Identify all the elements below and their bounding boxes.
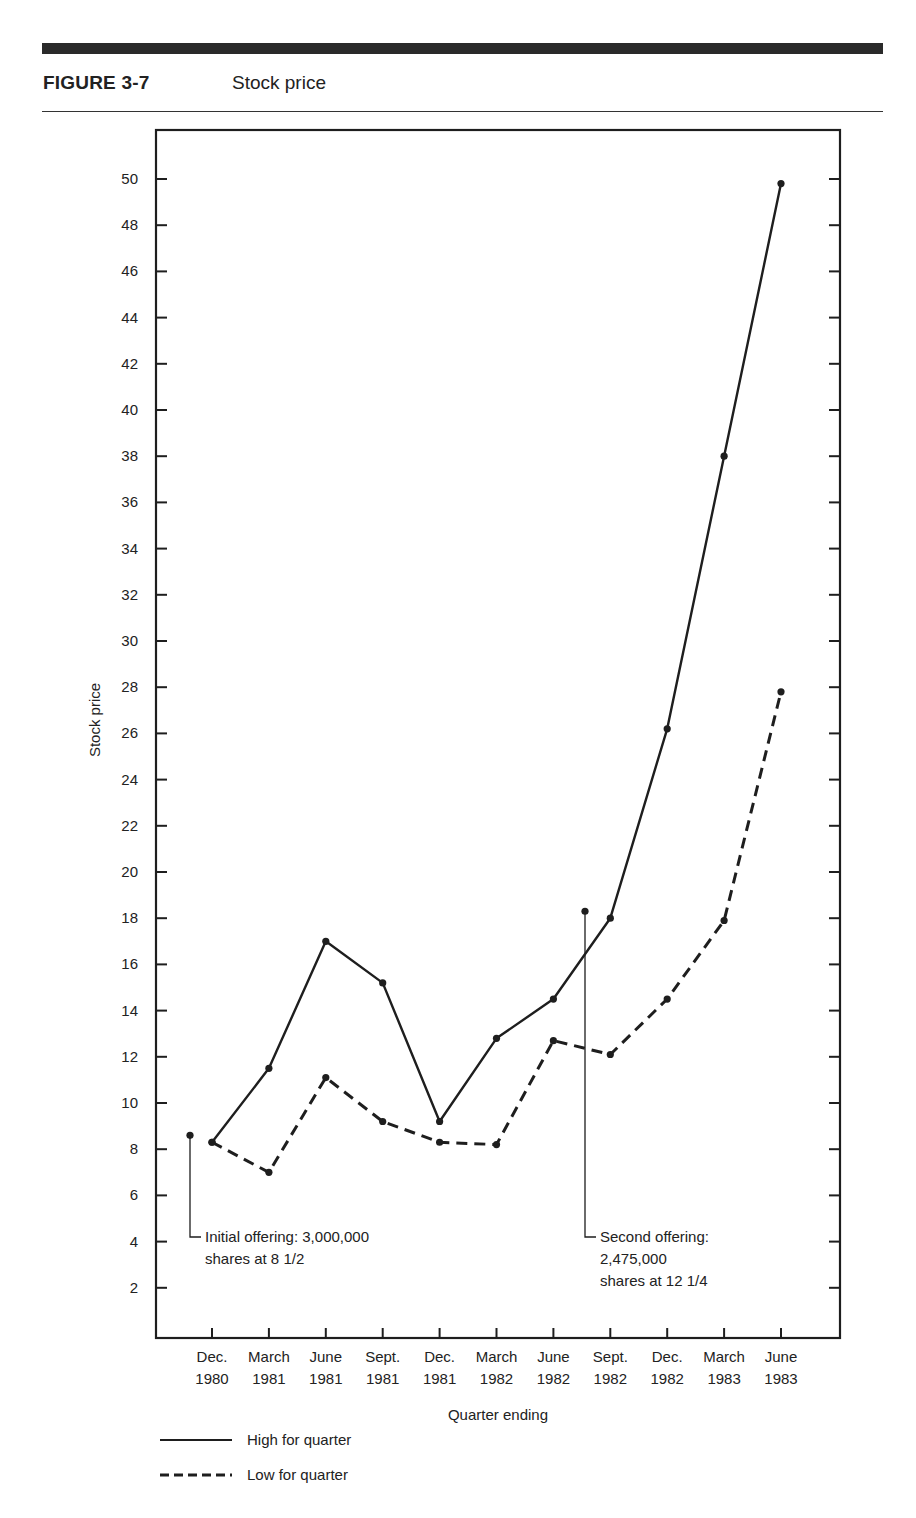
- low-series-line: [212, 692, 781, 1172]
- x-tick-label-year: 1981: [252, 1370, 285, 1387]
- initial-offering-leader-line: [190, 1135, 201, 1237]
- high-data-point: [322, 938, 329, 945]
- y-tick-label: 10: [121, 1094, 138, 1111]
- x-tick-label-month: Dec.: [652, 1348, 683, 1365]
- high-data-point: [607, 915, 614, 922]
- x-tick-label-month: June: [765, 1348, 798, 1365]
- x-tick-label-year: 1982: [594, 1370, 627, 1387]
- low-data-point: [721, 917, 728, 924]
- y-tick-label: 44: [121, 309, 138, 326]
- y-tick-label: 46: [121, 262, 138, 279]
- y-tick-label: 32: [121, 586, 138, 603]
- y-tick-label: 36: [121, 493, 138, 510]
- high-data-point: [493, 1035, 500, 1042]
- x-tick-label-year: 1983: [707, 1370, 740, 1387]
- stock-price-chart: 2468101214161820222426283032343638404244…: [0, 0, 916, 1518]
- second-offering-label: Second offering:: [600, 1228, 709, 1245]
- low-data-point: [664, 995, 671, 1002]
- x-tick-label-year: 1980: [195, 1370, 228, 1387]
- low-data-point: [493, 1141, 500, 1148]
- x-tick-label-month: March: [476, 1348, 518, 1365]
- x-tick-label-year: 1982: [537, 1370, 570, 1387]
- low-data-point: [607, 1051, 614, 1058]
- y-tick-label: 14: [121, 1002, 138, 1019]
- low-data-point: [322, 1074, 329, 1081]
- y-tick-label: 34: [121, 540, 138, 557]
- low-data-point: [777, 688, 784, 695]
- high-data-point: [550, 995, 557, 1002]
- y-tick-label: 40: [121, 401, 138, 418]
- low-data-point: [208, 1139, 215, 1146]
- x-tick-label-month: June: [537, 1348, 570, 1365]
- x-tick-label-year: 1981: [366, 1370, 399, 1387]
- y-tick-label: 2: [130, 1279, 138, 1296]
- high-data-point: [777, 180, 784, 187]
- y-axis-label: Stock price: [86, 683, 103, 757]
- y-tick-label: 26: [121, 724, 138, 741]
- x-tick-label-month: Dec.: [197, 1348, 228, 1365]
- x-axis-ticks: Dec.1980March1981June1981Sept.1981Dec.19…: [195, 1328, 797, 1387]
- x-tick-label-month: March: [248, 1348, 290, 1365]
- second-offering-label: shares at 12 1/4: [600, 1272, 708, 1289]
- y-tick-label: 8: [130, 1140, 138, 1157]
- y-tick-label: 42: [121, 355, 138, 372]
- high-series-line: [212, 184, 781, 1143]
- y-tick-label: 16: [121, 955, 138, 972]
- x-tick-label-year: 1982: [651, 1370, 684, 1387]
- legend-label: High for quarter: [247, 1431, 351, 1448]
- y-axis-ticks: 2468101214161820222426283032343638404244…: [121, 170, 840, 1296]
- high-data-point: [664, 725, 671, 732]
- initial-offering-label: Initial offering: 3,000,000: [205, 1228, 369, 1245]
- x-tick-label-month: Sept.: [365, 1348, 400, 1365]
- low-data-point: [436, 1139, 443, 1146]
- legend-label: Low for quarter: [247, 1466, 348, 1483]
- y-tick-label: 48: [121, 216, 138, 233]
- y-tick-label: 30: [121, 632, 138, 649]
- high-data-point: [265, 1065, 272, 1072]
- x-tick-label-month: June: [310, 1348, 343, 1365]
- x-tick-label-year: 1982: [480, 1370, 513, 1387]
- high-data-point: [721, 453, 728, 460]
- initial-offering-label: shares at 8 1/2: [205, 1250, 304, 1267]
- y-tick-label: 50: [121, 170, 138, 187]
- second-offering-leader-line: [585, 911, 596, 1237]
- y-tick-label: 24: [121, 771, 138, 788]
- y-tick-label: 4: [130, 1233, 138, 1250]
- y-tick-label: 12: [121, 1048, 138, 1065]
- y-tick-label: 28: [121, 678, 138, 695]
- x-tick-label-year: 1981: [423, 1370, 456, 1387]
- x-tick-label-month: Dec.: [424, 1348, 455, 1365]
- data-series: [208, 180, 784, 1176]
- low-data-point: [265, 1169, 272, 1176]
- y-tick-label: 18: [121, 909, 138, 926]
- high-data-point: [379, 979, 386, 986]
- y-tick-label: 6: [130, 1186, 138, 1203]
- y-tick-label: 20: [121, 863, 138, 880]
- legend: High for quarterLow for quarter: [160, 1431, 351, 1483]
- x-axis-label: Quarter ending: [448, 1406, 548, 1423]
- y-tick-label: 22: [121, 817, 138, 834]
- y-tick-label: 38: [121, 447, 138, 464]
- annotations: Initial offering: 3,000,000shares at 8 1…: [186, 908, 709, 1289]
- x-tick-label-month: March: [703, 1348, 745, 1365]
- x-tick-label-year: 1981: [309, 1370, 342, 1387]
- second-offering-label: 2,475,000: [600, 1250, 667, 1267]
- x-tick-label-year: 1983: [764, 1370, 797, 1387]
- low-data-point: [550, 1037, 557, 1044]
- x-tick-label-month: Sept.: [593, 1348, 628, 1365]
- plot-frame: [156, 130, 840, 1338]
- high-data-point: [436, 1118, 443, 1125]
- low-data-point: [379, 1118, 386, 1125]
